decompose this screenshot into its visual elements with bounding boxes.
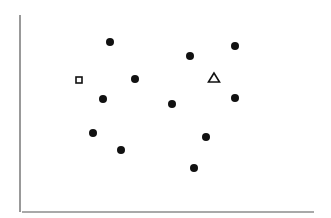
circle-marker xyxy=(89,129,97,137)
triangle-marker xyxy=(209,73,220,82)
circle-marker xyxy=(131,75,139,83)
circle-marker xyxy=(202,133,210,141)
circle-marker xyxy=(168,100,176,108)
circle-marker xyxy=(186,52,194,60)
circle-marker xyxy=(190,164,198,172)
circle-marker xyxy=(231,42,239,50)
circle-marker xyxy=(231,94,239,102)
square-marker xyxy=(76,77,82,83)
circle-marker xyxy=(99,95,107,103)
circle-marker xyxy=(117,146,125,154)
axes xyxy=(20,15,314,212)
circle-marker xyxy=(106,38,114,46)
scatter-plot xyxy=(0,0,331,218)
data-markers xyxy=(76,38,239,172)
